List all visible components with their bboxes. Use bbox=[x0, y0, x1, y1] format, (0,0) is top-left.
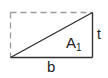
area-label: A1 bbox=[66, 34, 82, 53]
area-label-main: A bbox=[66, 34, 76, 51]
height-label: t bbox=[97, 26, 101, 42]
base-label: b bbox=[47, 58, 55, 75]
triangle-diagram: A1 t b bbox=[0, 0, 108, 78]
area-label-subscript: 1 bbox=[76, 42, 82, 53]
